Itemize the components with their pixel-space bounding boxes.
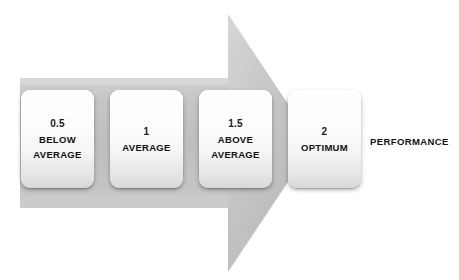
stage-box-average[interactable]: 1 AVERAGE [110,90,183,188]
stage-value: 2 [322,124,328,140]
stage-box-below-average[interactable]: 0.5 BELOW AVERAGE [21,90,94,188]
arrow-shaft-highlight [20,78,228,85]
stage-label-line: AVERAGE [122,140,170,155]
stage-label-line: BELOW [39,132,76,147]
stage-label-line: OPTIMUM [301,140,348,155]
stage-box-above-average[interactable]: 1.5 ABOVE AVERAGE [199,90,272,188]
stage-label-line: AVERAGE [211,147,259,162]
stage-value: 1.5 [228,116,243,132]
stage-box-optimum[interactable]: 2 OPTIMUM [288,90,361,188]
stage-value: 1 [144,124,150,140]
outcome-label: PERFORMANCE [370,136,449,147]
stage-label-line: ABOVE [218,132,253,147]
performance-scale-diagram: 0.5 BELOW AVERAGE 1 AVERAGE 1.5 ABOVE AV… [0,0,459,280]
stage-label-line: AVERAGE [33,147,81,162]
stage-value: 0.5 [50,116,65,132]
